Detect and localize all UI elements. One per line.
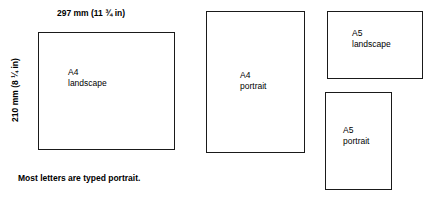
paper-box-label-a5-portrait: A5 portrait bbox=[343, 125, 369, 147]
paper-box-label-a4-portrait: A4 portrait bbox=[240, 70, 266, 92]
paper-box-label-a4-landscape: A4 landscape bbox=[68, 67, 107, 89]
paper-box-label-a5-landscape: A5 landscape bbox=[352, 28, 391, 50]
paper-sizes-diagram: 297 mm (11 ¾ in) 210 mm (8 ¼ in) A4 land… bbox=[0, 0, 442, 203]
a4-landscape-height-dimension-label: 210 mm (8 ¼ in) bbox=[10, 35, 20, 145]
diagram-caption: Most letters are typed portrait. bbox=[18, 172, 140, 184]
a4-landscape-width-dimension-label: 297 mm (11 ¾ in) bbox=[57, 8, 125, 18]
paper-box-a4-landscape bbox=[38, 32, 175, 150]
